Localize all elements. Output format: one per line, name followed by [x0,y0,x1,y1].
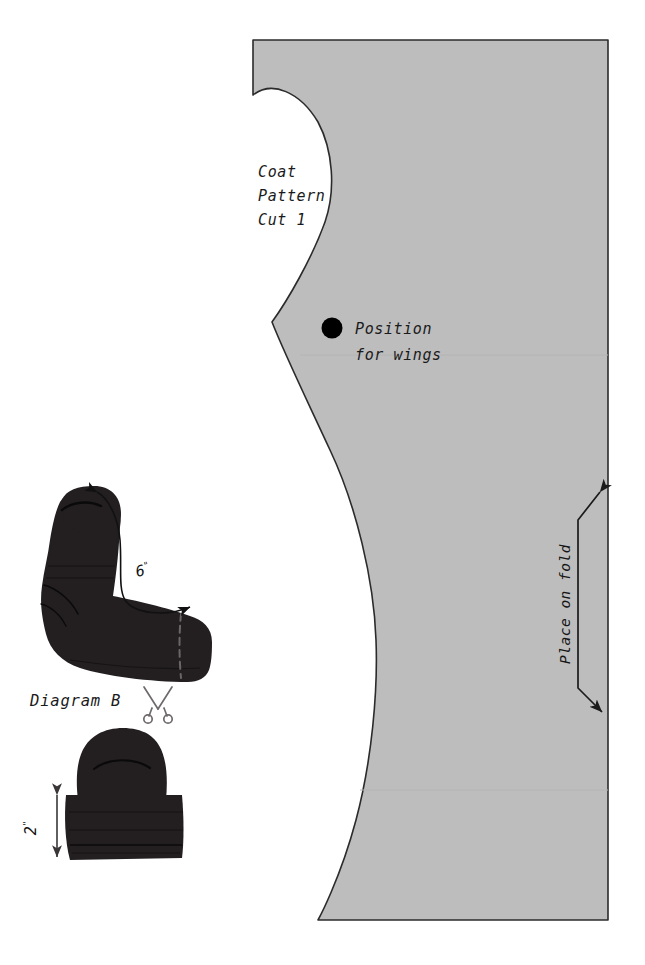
hat-crown [77,728,167,800]
hat-cuff-band [65,795,183,860]
pattern-sheet: Coat Pattern Cut 1 Position for wings Pl… [0,0,645,965]
hat-dimension-value: 2" [22,821,40,835]
hat-figure-layer: 2" [0,0,645,965]
hat-dimension-unit: " [22,821,32,826]
hat-dimension-number: 2 [22,826,40,835]
